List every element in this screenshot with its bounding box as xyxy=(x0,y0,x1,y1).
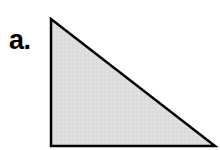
right-triangle-shape xyxy=(51,19,215,146)
figure-panel: a. xyxy=(0,0,220,150)
shape-canvas xyxy=(0,0,220,150)
